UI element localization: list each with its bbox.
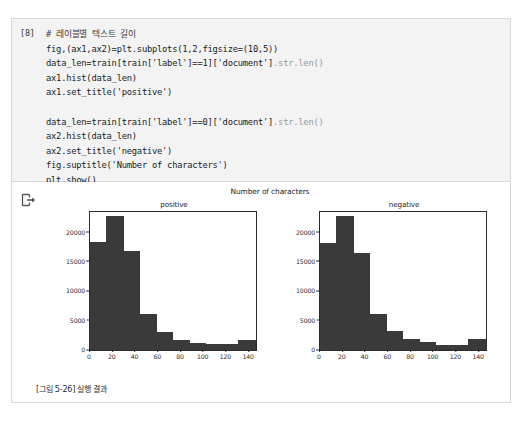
histogram-bar	[336, 216, 353, 350]
x-axis-tick-label: 60	[153, 349, 161, 360]
code-line: fig,(ax1,ax2)=plt.subplots(1,2,figsize=(…	[46, 42, 504, 57]
axes-title-positive: positive	[89, 200, 259, 209]
code-line: ax1.set_title('positive')	[46, 85, 504, 100]
code-line-trailing: .str.len()	[273, 117, 323, 127]
y-axis-tick-label: 5000	[300, 316, 319, 323]
x-axis-tick-label: 80	[406, 349, 414, 360]
x-axis-tick-label: 0	[317, 349, 321, 360]
code-line-text: data_len=train[train['label']==0]['docum…	[46, 117, 273, 127]
code-editor-text[interactable]: # 레이블별 텍스트 길이fig,(ax1,ax2)=plt.subplots(…	[46, 27, 504, 188]
histogram-bar	[139, 314, 156, 350]
y-axis-tick-label: 20000	[296, 228, 319, 235]
y-axis-tick-label: 5000	[70, 316, 89, 323]
plot-area-negative	[319, 211, 487, 351]
x-axis-tick-label: 100	[427, 349, 438, 360]
axes-container: positive 0500010000150002000002040608010…	[45, 200, 495, 372]
screenshot-page: [8] # 레이블별 텍스트 길이fig,(ax1,ax2)=plt.subpl…	[0, 0, 522, 421]
histogram-bar	[123, 251, 140, 350]
x-axis-tick-label: 120	[450, 349, 461, 360]
axes-negative: negative 0500010000150002000002040608010…	[281, 200, 489, 372]
x-axis-tick-label: 140	[242, 349, 253, 360]
x-axis-tick-label: 100	[197, 349, 208, 360]
histogram-bar	[90, 242, 107, 350]
axes-positive: positive 0500010000150002000002040608010…	[51, 200, 259, 372]
output-arrow-icon	[21, 192, 37, 206]
x-axis-tick-label: 140	[472, 349, 483, 360]
execution-count-prompt: [8]	[20, 28, 44, 38]
code-line-text: ax2.hist(data_len)	[46, 131, 137, 141]
code-line: fig.suptitle('Number of characters')	[46, 158, 504, 173]
code-line-text: ax2.set_title('negative')	[46, 146, 172, 156]
figure-suptitle: Number of characters	[45, 187, 495, 196]
output-cell: Number of characters positive 0500010000…	[12, 182, 510, 402]
histogram-bar	[320, 243, 337, 350]
x-axis-tick-label: 60	[383, 349, 391, 360]
histogram-bar	[369, 314, 386, 350]
code-line: data_len=train[train['label']==1]['docum…	[46, 56, 504, 71]
matplotlib-figure: Number of characters positive 0500010000…	[45, 184, 495, 374]
code-line: ax2.set_title('negative')	[46, 144, 504, 159]
x-axis-tick-label: 120	[220, 349, 231, 360]
x-axis-tick-label: 80	[176, 349, 184, 360]
y-axis-tick-label: 20000	[66, 228, 89, 235]
code-line-text: ax1.set_title('positive')	[46, 87, 172, 97]
histogram-bars-negative	[320, 212, 486, 350]
code-line: # 레이블별 텍스트 길이	[46, 27, 504, 42]
notebook-cell-frame: [8] # 레이블별 텍스트 길이fig,(ax1,ax2)=plt.subpl…	[11, 18, 511, 403]
code-line-text: ax1.hist(data_len)	[46, 73, 137, 83]
y-axis-tick-label: 10000	[66, 287, 89, 294]
histogram-bars-positive	[90, 212, 256, 350]
x-axis-tick-label: 20	[338, 349, 346, 360]
code-line	[46, 100, 504, 115]
code-line-text: # 레이블별 텍스트 길이	[46, 29, 136, 39]
y-axis-tick-label: 15000	[296, 257, 319, 264]
y-axis-tick-label: 10000	[296, 287, 319, 294]
histogram-bar	[156, 332, 173, 350]
figure-caption: [그림 5-26] 실행 결과	[36, 383, 107, 394]
histogram-bar	[386, 331, 403, 350]
code-line: ax2.hist(data_len)	[46, 129, 504, 144]
code-line-text: fig.suptitle('Number of characters')	[46, 160, 228, 170]
x-axis-tick-label: 40	[361, 349, 369, 360]
axes-title-negative: negative	[319, 200, 489, 209]
histogram-bar	[106, 216, 123, 350]
code-cell[interactable]: [8] # 레이블별 텍스트 길이fig,(ax1,ax2)=plt.subpl…	[12, 19, 510, 182]
x-axis-tick-label: 0	[87, 349, 91, 360]
code-line: ax1.hist(data_len)	[46, 71, 504, 86]
plot-area-positive	[89, 211, 257, 351]
code-line-text: data_len=train[train['label']==1]['docum…	[46, 58, 273, 68]
x-axis-tick-label: 20	[108, 349, 116, 360]
code-line-trailing: .str.len()	[273, 58, 323, 68]
x-axis-tick-label: 40	[131, 349, 139, 360]
histogram-bar	[353, 253, 370, 350]
y-axis-tick-label: 15000	[66, 257, 89, 264]
code-line: data_len=train[train['label']==0]['docum…	[46, 115, 504, 130]
code-line-text: fig,(ax1,ax2)=plt.subplots(1,2,figsize=(…	[46, 44, 278, 54]
